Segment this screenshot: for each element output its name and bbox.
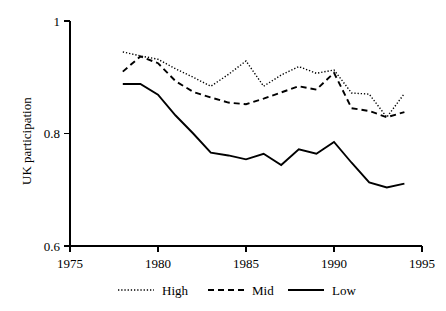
line-chart: UK participation 1 0.8 0.6 1975 1980 198… — [0, 0, 446, 311]
chart-container: UK participation 1 0.8 0.6 1975 1980 198… — [0, 0, 446, 311]
x-tick-label-1990: 1990 — [321, 256, 347, 271]
y-tick-label-0-6: 0.6 — [44, 239, 61, 254]
chart-legend: High Mid Low — [118, 283, 356, 298]
legend-label-high: High — [162, 283, 189, 298]
y-axis-title: UK participation — [19, 97, 34, 185]
series-line-high — [123, 52, 405, 117]
x-tick-label-1995: 1995 — [409, 256, 435, 271]
y-tick-label-0-8: 0.8 — [44, 126, 60, 141]
x-tick-label-1985: 1985 — [233, 256, 259, 271]
legend-label-low: Low — [332, 283, 356, 298]
y-tick-label-1: 1 — [54, 14, 61, 29]
x-tick-label-1975: 1975 — [57, 256, 83, 271]
y-axis-ticks: 1 0.8 0.6 — [44, 14, 70, 254]
legend-label-mid: Mid — [252, 283, 274, 298]
series-line-mid — [123, 56, 405, 117]
x-axis-ticks: 1975 1980 1985 1990 1995 — [57, 246, 435, 271]
series-group — [123, 52, 405, 188]
x-tick-label-1980: 1980 — [145, 256, 171, 271]
